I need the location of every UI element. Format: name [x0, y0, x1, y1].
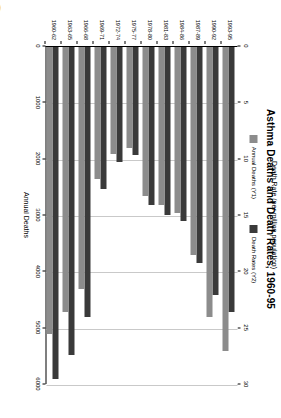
bar-group: [45, 47, 61, 384]
axis-tick: [42, 384, 45, 385]
axis-tick-label: 30: [242, 381, 248, 388]
category-label: 1984-86: [178, 20, 184, 40]
bar-group: [189, 47, 205, 384]
bar-group: [93, 47, 109, 384]
bar-death-rate: [148, 47, 154, 205]
axis-tick-label: 20: [242, 268, 248, 275]
bar-death-rate: [52, 47, 58, 379]
bar-annual-deaths: [94, 47, 100, 179]
axis-tick: [140, 41, 141, 44]
bar-annual-deaths: [78, 47, 84, 289]
axis-tick: [42, 271, 45, 272]
axis-tick: [42, 46, 45, 47]
axis-tick: [108, 41, 109, 44]
bar-annual-deaths: [206, 47, 212, 317]
category-label: 1978-80: [146, 20, 152, 40]
axis-tick-label: 5000: [34, 321, 40, 334]
bar-annual-deaths: [158, 47, 164, 205]
secondary-axis-ticks: 051015202530: [237, 46, 253, 384]
axis-tick: [42, 215, 45, 216]
axis-tick-label: 25: [242, 324, 248, 331]
bar-group: [157, 47, 173, 384]
bar-group: [173, 47, 189, 384]
bar-death-rate: [132, 47, 138, 155]
axis-tick-label: 5: [242, 101, 248, 104]
chart-canvas: Asthma Deaths and Death Rates, 1960-95 A…: [0, 0, 281, 418]
category-label: 1987-89: [194, 20, 200, 40]
secondary-axis-label: Death Rate (per million population): [270, 46, 277, 384]
category-axis-ticks: 1960-621963-651966-681969-711972-741975-…: [45, 0, 237, 44]
bar-death-rate: [116, 47, 122, 162]
axis-tick-label: 6000: [34, 377, 40, 390]
bar-annual-deaths: [190, 47, 196, 255]
bar-annual-deaths: [222, 47, 228, 351]
bar-annual-deaths: [126, 47, 132, 148]
bar-annual-deaths: [62, 47, 68, 312]
axis-tick-label: 10: [242, 155, 248, 162]
bar-death-rate: [84, 47, 90, 317]
axis-tick: [42, 158, 45, 159]
axis-tick: [42, 102, 45, 103]
axis-tick: [188, 41, 189, 44]
axis-tick: [42, 327, 45, 328]
bar-death-rate: [228, 47, 234, 312]
bar-group: [141, 47, 157, 384]
bar-annual-deaths: [46, 47, 52, 334]
axis-tick: [156, 41, 157, 44]
category-label: 1966-68: [82, 20, 88, 40]
category-label: 1972-74: [114, 20, 120, 40]
bar-group: [109, 47, 125, 384]
bar-group: [125, 47, 141, 384]
category-label: 1969-71: [98, 20, 104, 40]
plot-area: [45, 46, 237, 384]
axis-tick: [124, 41, 125, 44]
category-label: 1975-77: [130, 20, 136, 40]
bar-group: [77, 47, 93, 384]
axis-tick-label: 3000: [34, 208, 40, 221]
category-label: 1981-83: [162, 20, 168, 40]
axis-tick: [92, 41, 93, 44]
axis-tick-label: 1000: [34, 96, 40, 109]
axis-tick: [172, 41, 173, 44]
rotated-page-wrapper: Asthma Deaths and Death Rates, 1960-95 A…: [0, 0, 281, 418]
bar-annual-deaths: [110, 47, 116, 154]
axis-tick: [44, 41, 45, 44]
bar-death-rate: [68, 47, 74, 355]
axis-tick-label: 2000: [34, 152, 40, 165]
axis-tick: [60, 41, 61, 44]
category-label: 1993-95: [226, 20, 232, 40]
bar-death-rate: [100, 47, 106, 189]
axis-tick-label: 4000: [34, 265, 40, 278]
axis-tick: [76, 41, 77, 44]
bar-death-rate: [212, 47, 218, 295]
category-label: 1963-65: [66, 20, 72, 40]
axis-tick: [220, 41, 221, 44]
bar-group: [221, 47, 237, 384]
axis-tick: [204, 41, 205, 44]
bar-annual-deaths: [174, 47, 180, 213]
axis-tick-label: 0: [34, 44, 40, 47]
bar-death-rate: [180, 47, 186, 221]
bar-death-rate: [196, 47, 202, 263]
bar-series-container: [46, 47, 237, 384]
gridline: [46, 385, 237, 386]
axis-tick-label: 0: [242, 44, 248, 47]
bar-group: [205, 47, 221, 384]
primary-axis-label: Annual Deaths: [22, 46, 29, 384]
bar-annual-deaths: [142, 47, 148, 196]
bar-group: [61, 47, 77, 384]
category-label: 1960-62: [50, 20, 56, 40]
axis-tick-label: 15: [242, 212, 248, 219]
category-label: 1990-92: [210, 20, 216, 40]
primary-axis-ticks: 0100020003000400050006000: [27, 46, 45, 384]
bar-death-rate: [164, 47, 170, 215]
